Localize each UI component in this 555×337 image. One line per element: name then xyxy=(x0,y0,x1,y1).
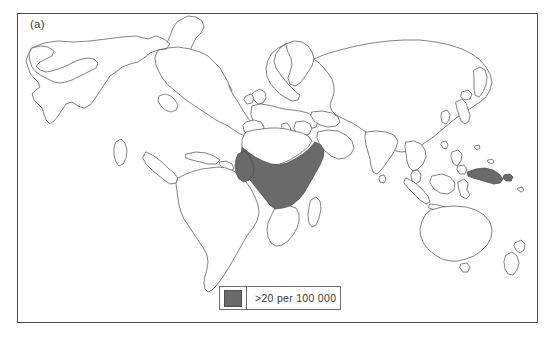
new-britain-highlight xyxy=(503,174,513,181)
indochina xyxy=(405,141,426,171)
taiwan xyxy=(441,141,448,149)
new-zealand-south xyxy=(504,252,519,275)
great-lakes xyxy=(158,94,178,112)
world-map xyxy=(18,14,537,322)
europe-scandinavia xyxy=(286,41,314,86)
north-america xyxy=(26,36,254,136)
island-dot-3 xyxy=(475,145,480,150)
borneo xyxy=(430,174,455,194)
map-legend: >20 per 100 000 xyxy=(219,286,341,310)
papua-new-guinea-highlight xyxy=(467,168,503,184)
legend-swatch-highlight xyxy=(224,290,242,307)
sulawesi xyxy=(458,179,470,199)
panel-label: (a) xyxy=(30,18,45,30)
island-dot-1 xyxy=(518,187,524,192)
india-subcontinent xyxy=(365,131,398,174)
southern-africa xyxy=(267,206,299,246)
legend-swatch-cell xyxy=(220,287,247,309)
australia xyxy=(420,206,492,261)
new-zealand-north xyxy=(514,240,525,253)
baja-california xyxy=(114,139,127,166)
figure-panel: (a) xyxy=(0,0,555,337)
caribbean-islands xyxy=(186,152,220,164)
tasmania xyxy=(460,263,470,272)
british-isles xyxy=(252,89,266,104)
sri-lanka xyxy=(379,175,386,183)
philippines-south xyxy=(457,165,467,174)
madagascar xyxy=(308,197,321,227)
island-dot-2 xyxy=(488,159,494,164)
legend-label: >20 per 100 000 xyxy=(247,292,340,304)
ireland xyxy=(244,94,254,104)
south-america xyxy=(176,167,259,292)
central-america xyxy=(143,152,178,184)
philippines xyxy=(451,150,462,166)
